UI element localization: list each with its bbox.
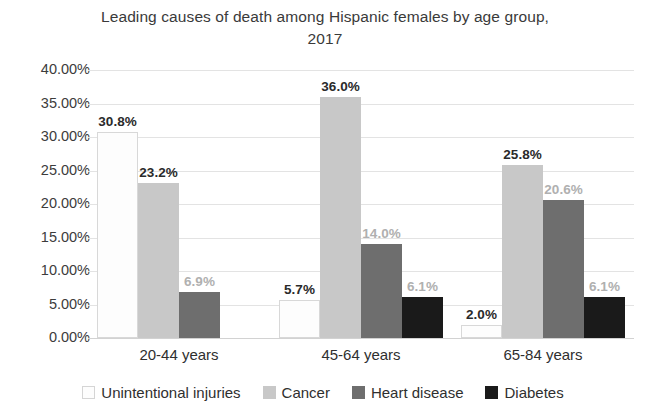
bar	[279, 300, 320, 338]
gridline	[88, 338, 634, 339]
legend-swatch-icon	[352, 386, 365, 399]
x-axis-category-label: 20-44 years	[88, 346, 270, 363]
y-axis-tick-label: 40.00%	[4, 61, 90, 77]
bar-value-label: 23.2%	[128, 165, 189, 180]
legend-swatch-icon	[485, 386, 498, 399]
chart-title: Leading causes of death among Hispanic f…	[55, 6, 595, 50]
y-axis-tick-label: 30.00%	[4, 128, 90, 144]
bar-value-label: 6.1%	[392, 279, 453, 294]
legend-label: Diabetes	[504, 384, 563, 401]
bar-value-label: 30.8%	[87, 114, 148, 129]
y-axis-tick-label: 10.00%	[4, 262, 90, 278]
legend-item[interactable]: Unintentional injuries	[82, 384, 240, 401]
x-axis-category-label: 45-64 years	[270, 346, 452, 363]
bar	[179, 292, 220, 338]
y-axis-tick-label: 5.00%	[4, 296, 90, 312]
bar	[138, 183, 179, 338]
legend-item[interactable]: Cancer	[263, 384, 330, 401]
y-axis-tick-label: 25.00%	[4, 162, 90, 178]
legend-swatch-icon	[263, 386, 276, 399]
bar-chart: Leading causes of death among Hispanic f…	[0, 0, 646, 414]
bar	[461, 325, 502, 338]
bar	[97, 132, 138, 338]
legend-label: Heart disease	[371, 384, 464, 401]
y-axis-tick-label: 35.00%	[4, 95, 90, 111]
bar-value-label: 6.1%	[574, 279, 635, 294]
bar	[320, 97, 361, 338]
chart-legend: Unintentional injuriesCancerHeart diseas…	[0, 384, 646, 401]
bar-value-label: 25.8%	[492, 147, 553, 162]
legend-item[interactable]: Diabetes	[485, 384, 563, 401]
gridline	[88, 70, 634, 71]
legend-swatch-icon	[82, 386, 95, 399]
bar	[402, 297, 443, 338]
legend-label: Unintentional injuries	[101, 384, 240, 401]
bar-value-label: 6.9%	[169, 274, 230, 289]
gridline	[88, 104, 634, 105]
bar	[584, 297, 625, 338]
bar-value-label: 14.0%	[351, 226, 412, 241]
bar-value-label: 36.0%	[310, 79, 371, 94]
legend-label: Cancer	[282, 384, 330, 401]
y-axis-tick-label: 0.00%	[4, 329, 90, 345]
y-axis-tick-label: 15.00%	[4, 229, 90, 245]
bar	[543, 200, 584, 338]
gridline	[88, 137, 634, 138]
y-axis-tick-label: 20.00%	[4, 195, 90, 211]
bar-value-label: 20.6%	[533, 182, 594, 197]
x-axis-category-label: 65-84 years	[452, 346, 634, 363]
plot-area: 30.8%23.2%6.9%5.7%36.0%14.0%6.1%2.0%25.8…	[88, 70, 634, 338]
legend-item[interactable]: Heart disease	[352, 384, 464, 401]
